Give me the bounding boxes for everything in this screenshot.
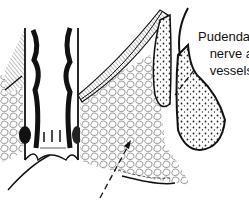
label-line-3: vessels (193, 62, 249, 79)
label-line-1: Pudendal (193, 28, 249, 45)
right-fat-region (80, 55, 190, 185)
pudendal-label: Pudendal nerve a vessels (193, 28, 249, 79)
label-line-2: nerve a (193, 45, 249, 62)
anal-canal (25, 28, 78, 160)
left-sphincter-nodule (19, 126, 31, 144)
left-muscle-hatching (5, 28, 25, 95)
